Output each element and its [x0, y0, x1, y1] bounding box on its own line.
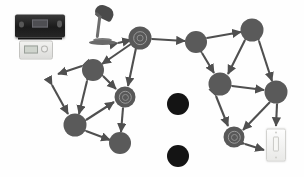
diagram-canvas: [0, 0, 304, 177]
edge-n10-switch: [245, 144, 264, 150]
node-far-right[interactable]: [265, 81, 288, 104]
node-lower-center[interactable]: [109, 132, 131, 154]
edge-n8-n9: [232, 86, 264, 90]
node-isolated-upper[interactable]: [167, 93, 189, 115]
edge-n6-n8: [202, 53, 214, 73]
edge-n3-n5: [86, 131, 110, 140]
remote-dial: [41, 46, 48, 53]
lamp-base: [89, 40, 116, 45]
node-upper-right[interactable]: [241, 19, 264, 42]
edge-n9-n10: [243, 102, 270, 130]
switch-screw-top: [275, 132, 277, 134]
edge-n2-n4: [103, 76, 116, 89]
node-center-speaker[interactable]: [115, 87, 136, 108]
edge-n2-n3: [79, 81, 87, 114]
node-isolated-lower[interactable]: [167, 145, 189, 167]
receiver-knob-left: [19, 21, 24, 27]
remote-control-panel: [19, 41, 53, 60]
remote-screen: [24, 45, 38, 53]
edge-n8-n10: [216, 96, 228, 126]
network-scene: [0, 0, 304, 177]
receiver-knob-right: [57, 21, 62, 28]
edge-n7-n9: [259, 41, 272, 81]
node-right-mid[interactable]: [209, 73, 232, 96]
desk-lamp: [86, 6, 122, 46]
edge-n4-n5: [121, 108, 123, 132]
receiver-display: [32, 20, 48, 28]
node-upper-center[interactable]: [185, 31, 207, 53]
node-upper-left[interactable]: [82, 59, 104, 81]
edge-n1-n2: [102, 44, 131, 64]
edge-n3-n4: [86, 102, 114, 120]
edge-n6-n7: [207, 32, 241, 38]
receiver-base: [18, 38, 62, 40]
switch-screw-bottom: [275, 156, 277, 158]
edge-n1-n4: [128, 48, 136, 86]
edge-n2-left: [58, 66, 82, 74]
node-left-mid[interactable]: [64, 114, 87, 137]
switch-toggle[interactable]: [273, 136, 279, 152]
edge-n9-switch: [276, 104, 277, 126]
node-hub-lamp-link[interactable]: [129, 27, 152, 50]
edge-left-n3: [52, 85, 68, 114]
edge-n7-n8: [228, 40, 245, 74]
edge-n1-n6: [152, 39, 185, 41]
av-receiver: [15, 15, 65, 38]
lamp-neck: [96, 16, 102, 38]
node-lower-right-sensor[interactable]: [224, 127, 245, 148]
wall-light-switch[interactable]: [266, 129, 286, 162]
